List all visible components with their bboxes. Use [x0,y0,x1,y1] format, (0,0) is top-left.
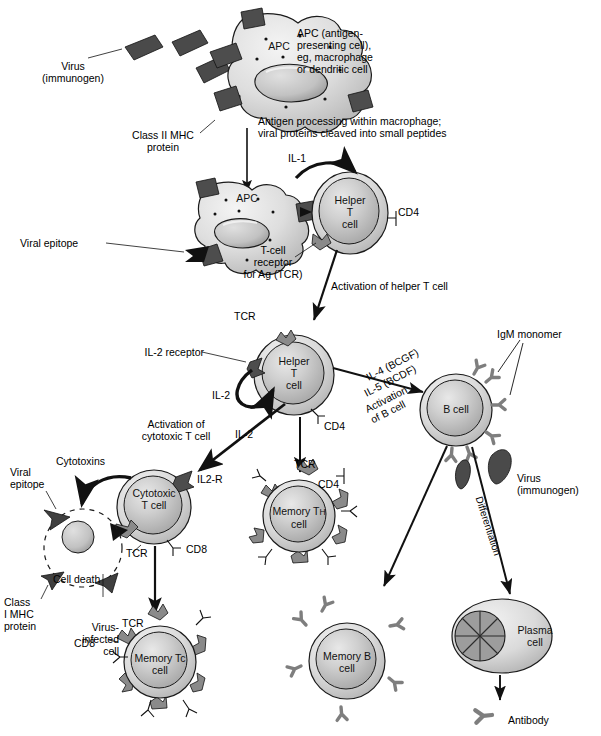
label-viral-epitope-left: Viral epitope [10,466,70,490]
label-il2-receptor: IL-2 receptor [118,346,204,358]
label-il2r: IL2-R [197,473,241,485]
label-b-cell: B cell [432,403,480,415]
label-cd4-3: CD4 [318,478,354,490]
label-memory-th-cell: Memory TH cell [262,505,336,530]
label-apc-mid: APC [223,192,271,204]
label-helper-t-cell-1: Helper T cell [326,194,374,230]
label-tcr-for-ag: T-cell receptor for Ag (TCR) [229,244,317,280]
label-cd4-2: CD4 [324,420,364,432]
label-cytotoxic-t-cell: Cytotoxic T cell [122,487,186,511]
label-cell-death: Cell death [53,573,125,585]
label-tcr-memory-th: TCR [294,458,330,470]
label-viral-epitope-mid: Viral epitope [20,237,110,249]
label-apc-top: APC [255,40,303,52]
memory-th-prefix: Memory T [272,505,319,517]
label-il1: IL-1 [288,152,328,164]
label-cd4-1: CD4 [398,206,438,218]
immune-response-diagram: Virus (immunogen) APC APC (antigen- pres… [0,0,601,736]
label-cd8-1: CD8 [186,543,220,555]
memory-th-suffix: cell [291,518,307,530]
label-class2-mhc: Class II MHC protein [108,129,218,153]
label-antigen-processing: Antigen processing within macrophage; vi… [258,115,588,139]
cytotoxic-t-cell [110,470,194,556]
label-tcr-helper-2: TCR [234,310,274,322]
label-il2-autocrine: IL-2 [212,389,246,401]
memory-th-subscript: H [319,507,325,517]
label-tcr-cytotoxic: TCR [126,547,162,559]
label-activation-cytotoxic-t: Activation of cytotoxic T cell [118,418,234,442]
label-il2-to-cytotoxic: IL-2 [235,428,269,440]
label-memory-b-cell: Memory B cell [311,650,383,674]
label-plasma-cell: Plasma cell [508,624,562,648]
label-virus-top: Virus (immunogen) [28,60,118,84]
label-apc-description: APC (antigen- presenting cell), eg, macr… [297,27,457,75]
label-class1-mhc: Class I MHC protein [4,596,60,632]
label-antibody: Antibody [508,714,574,726]
antibody-icon [475,709,492,723]
label-memory-tc-cell: Memory Tc cell [124,652,196,676]
label-tcr-memory-tc: TCR [122,617,158,629]
label-virus-right: Virus (immunogen) [517,472,601,496]
label-cd8-2: CD8 [74,637,108,649]
label-activation-helper-t: Activation of helper T cell [331,280,521,292]
label-igm-monomer: IgM monomer [497,328,601,340]
virus-particle-icon [455,450,511,489]
label-helper-t-cell-2: Helper T cell [270,355,318,391]
